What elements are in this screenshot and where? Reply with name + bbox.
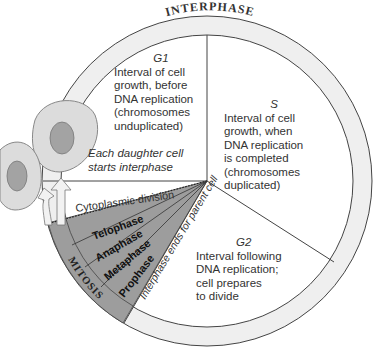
- g2-description: G2 Interval following DNA replication; c…: [196, 236, 306, 304]
- nucleus-icon: [50, 122, 74, 154]
- nucleus-icon: [7, 161, 27, 191]
- daughter-cell-2: [0, 142, 41, 210]
- s-description: S Interval of cell growth, when DNA repl…: [224, 98, 324, 193]
- g1-description: G1 Interval of cell growth, before DNA r…: [114, 52, 208, 133]
- daughter-cell-note: Each daughter cell starts interphase: [88, 147, 198, 174]
